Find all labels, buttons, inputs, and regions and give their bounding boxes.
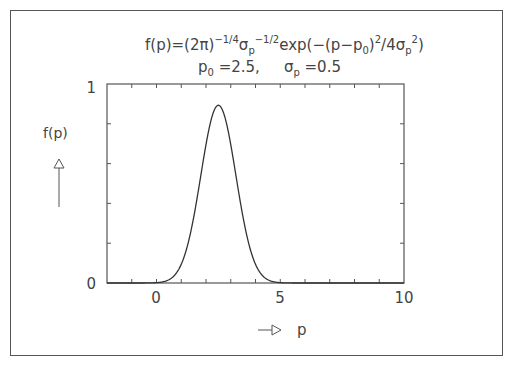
x-axis-label: p — [297, 321, 307, 339]
x-tick-label-5: 5 — [275, 289, 285, 307]
title-line-2: p0 =2.5,σp =0.5 — [198, 58, 341, 78]
plot-area — [107, 84, 404, 283]
title-line-1: f(p)=(2π)−1/4σp−1/2exp(−(p−p0)2/4σp2) — [145, 34, 424, 56]
x-tick-label-10: 10 — [394, 289, 413, 307]
y-tick-label-1: 1 — [86, 79, 96, 97]
x-ticks — [132, 84, 380, 283]
y-tick-label-0: 0 — [86, 275, 96, 293]
y-axis-arrow-icon — [54, 159, 64, 207]
y-axis-label: f(p) — [43, 125, 68, 141]
chart: f(p)=(2π)−1/4σp−1/2exp(−(p−p0)2/4σp2) p0… — [0, 0, 513, 368]
gaussian-curve — [107, 105, 404, 283]
x-axis-arrow-icon — [258, 325, 281, 335]
x-tick-label-0: 0 — [151, 289, 161, 307]
y-ticks — [107, 124, 404, 243]
